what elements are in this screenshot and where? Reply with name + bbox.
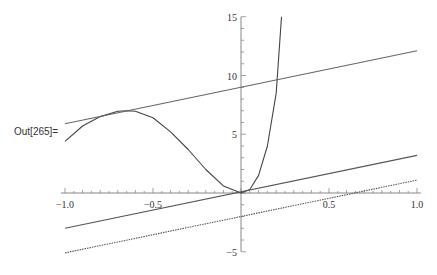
x-tick-label: 0.5 bbox=[323, 199, 336, 210]
series-curve bbox=[65, 17, 282, 193]
x-tick-label: 1.0 bbox=[411, 199, 424, 210]
plot: −1.0−0.50.51.0−551015 bbox=[0, 0, 437, 275]
y-tick-label: 15 bbox=[227, 12, 237, 23]
y-tick-label: 10 bbox=[227, 71, 237, 82]
y-tick-label: 5 bbox=[232, 129, 237, 140]
y-tick-label: −5 bbox=[226, 247, 237, 258]
x-tick-label: −1.0 bbox=[56, 199, 74, 210]
